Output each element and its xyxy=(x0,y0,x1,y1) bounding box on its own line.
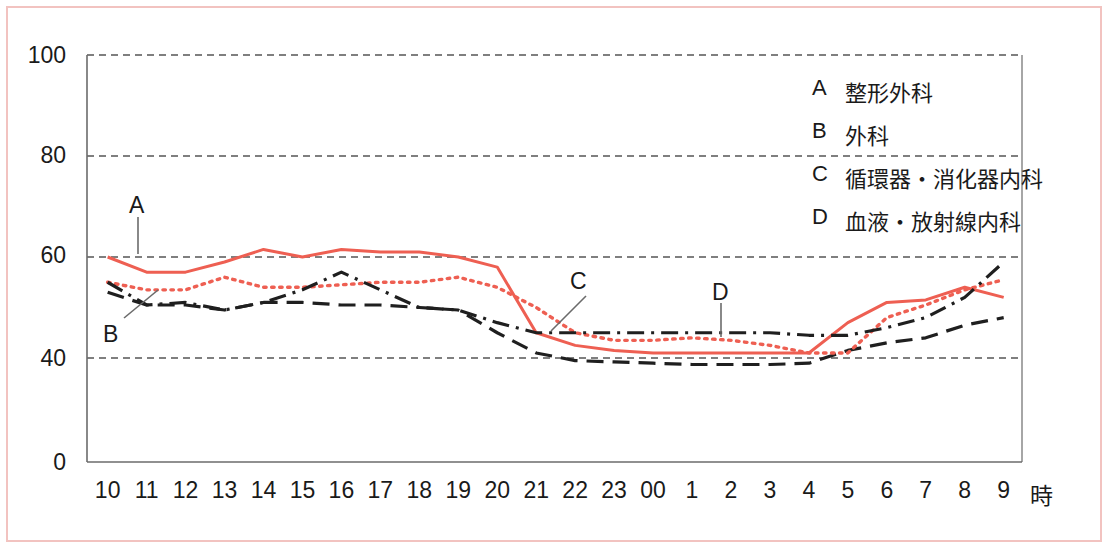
series-annotation-a: A xyxy=(129,192,144,219)
series-annotation-d: D xyxy=(712,279,729,306)
legend-key-b: B xyxy=(812,118,827,144)
x-tick-label-9: 9 xyxy=(981,477,1027,504)
y-tick-label-40: 40 xyxy=(0,345,66,372)
series-line-d xyxy=(108,262,1004,335)
legend-label-d: 血液・放射線内科 xyxy=(845,204,1021,236)
y-tick-label-80: 80 xyxy=(0,142,66,169)
y-tick-label-100: 100 xyxy=(0,42,66,69)
line-chart-canvas xyxy=(0,0,1110,550)
y-tick-label-0: 0 xyxy=(0,449,66,476)
legend-label-b: 外科 xyxy=(845,118,889,150)
y-tick-label-60: 60 xyxy=(0,242,66,269)
series-line-a xyxy=(108,249,1004,353)
series-line-b xyxy=(108,292,1004,364)
data-series-group xyxy=(108,249,1004,364)
series-annotation-b: B xyxy=(103,321,118,348)
legend-key-d: D xyxy=(812,204,828,230)
series-annotation-c: C xyxy=(570,268,587,295)
chart-stage: 100 80 60 40 0 1011121314151617181920212… xyxy=(0,0,1110,550)
legend-key-c: C xyxy=(812,161,828,187)
legend-key-a: A xyxy=(812,75,827,101)
leader-line-c xyxy=(551,296,586,331)
axes-group xyxy=(87,55,1022,462)
legend-label-c: 循環器・消化器内科 xyxy=(845,161,1043,193)
legend-label-a: 整形外科 xyxy=(845,75,933,107)
annotation-leader-lines xyxy=(124,217,721,337)
series-line-c xyxy=(108,277,1004,353)
x-axis-unit-label: 時 xyxy=(1030,477,1053,511)
